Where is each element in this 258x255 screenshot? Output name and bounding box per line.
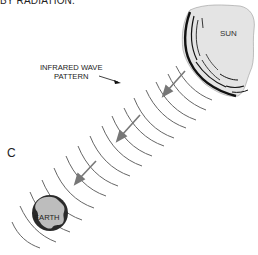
arrow-icon — [163, 71, 185, 96]
infrared-wave-label: INFRARED WAVE PATTERN — [40, 63, 102, 81]
arrow-icon — [75, 161, 96, 184]
radiation-arrows — [75, 71, 185, 184]
sun-label: SUN — [220, 29, 237, 38]
wave-label-line2: PATTERN — [40, 72, 102, 81]
earth-label: EARTH — [34, 213, 60, 222]
wave-label-line1: INFRARED WAVE — [40, 63, 102, 72]
panel-letter: C — [7, 146, 16, 160]
sun-icon — [182, 5, 254, 96]
